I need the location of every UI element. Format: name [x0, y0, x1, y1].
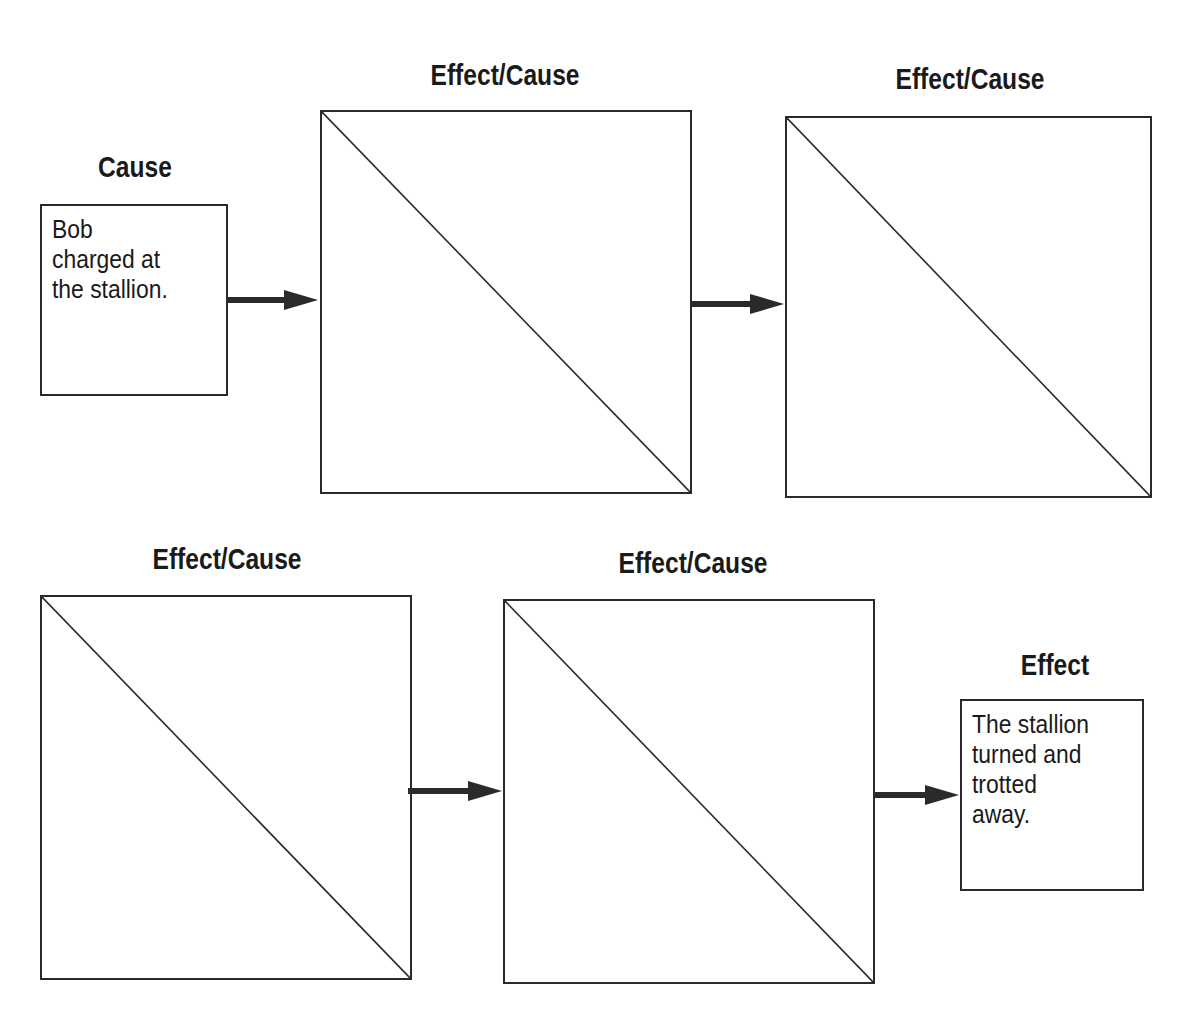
effect-cause-box-4[interactable]: [503, 599, 875, 984]
effect-cause-box-1[interactable]: [320, 110, 692, 494]
cause-box: Bob charged at the stallion.: [40, 204, 228, 396]
arrow-icon: [873, 783, 961, 807]
cause-heading: Cause: [82, 150, 189, 184]
cause-text: Bob charged at the stallion.: [52, 214, 205, 304]
effect-cause-heading-3: Effect/Cause: [125, 542, 330, 576]
arrow-icon: [690, 292, 786, 316]
diagonal-divider: [787, 118, 1150, 496]
diagonal-divider: [322, 112, 690, 492]
diagonal-divider: [42, 597, 410, 978]
arrow-icon: [408, 779, 504, 803]
effect-cause-heading-2: Effect/Cause: [868, 62, 1073, 96]
effect-text: The stallion turned and trotted away.: [972, 709, 1122, 829]
effect-cause-box-2[interactable]: [785, 116, 1152, 498]
effect-cause-heading-1: Effect/Cause: [403, 58, 608, 92]
effect-cause-heading-4: Effect/Cause: [591, 546, 796, 580]
effect-heading: Effect: [1002, 648, 1109, 682]
effect-cause-box-3[interactable]: [40, 595, 412, 980]
effect-box: The stallion turned and trotted away.: [960, 699, 1144, 891]
arrow-icon: [226, 288, 320, 312]
diagonal-divider: [505, 601, 873, 982]
